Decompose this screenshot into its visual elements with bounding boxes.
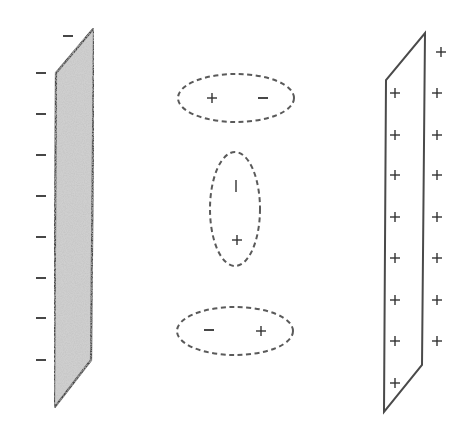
- right-plate-shape: [384, 33, 425, 412]
- plus-charge-icon: [232, 235, 242, 245]
- plus-charge-icon: [432, 130, 442, 140]
- dipole-vertical: [210, 152, 260, 266]
- plus-charge-icon: [436, 47, 446, 57]
- dipole-dashed-outline: [210, 152, 260, 266]
- plus-charge-icon: [207, 93, 217, 103]
- dielectric-dipoles: [177, 74, 294, 355]
- plus-charge-icon: [432, 88, 442, 98]
- plus-charge-icon: [432, 253, 442, 263]
- plus-charge-icon: [432, 295, 442, 305]
- plus-charge-icon: [256, 326, 266, 336]
- plus-charge-icon: [432, 212, 442, 222]
- capacitor-dielectric-diagram: [0, 0, 467, 429]
- dipole-horizontal: [178, 74, 294, 122]
- right-positive-plate: [384, 33, 425, 412]
- left-negative-plate: [54, 28, 94, 408]
- dipole-horizontal: [177, 307, 293, 355]
- plus-charge-icon: [432, 336, 442, 346]
- left-plate-shape: [54, 28, 94, 408]
- plus-charge-icon: [432, 170, 442, 180]
- dipole-dashed-outline: [177, 307, 293, 355]
- dipole-dashed-outline: [178, 74, 294, 122]
